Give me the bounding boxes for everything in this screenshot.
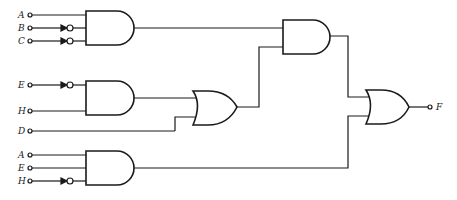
input-terminal-d [28,129,32,133]
output-label-f: F [435,102,443,112]
and-gate-3 [283,20,330,54]
input-terminal-h1 [28,109,32,113]
and-gate-2-body [86,81,134,115]
or-gate-2: F [366,90,443,124]
input-terminal-h2 [28,179,32,183]
and-gate-1-body [86,11,134,45]
and-gate-1: A B C [17,10,134,46]
inverter-icon-c [61,38,86,44]
input-terminal-b [28,26,32,30]
logic-circuit-diagram: A B C E H [0,0,457,200]
input-terminal-e2 [28,166,32,170]
input-terminal-c [28,39,32,43]
inverter-icon-b [61,25,86,31]
or-gate-1 [193,91,237,125]
inverter-icon-h [61,178,86,184]
and-gate-3-body [283,20,330,54]
output-terminal-f [428,105,432,109]
input-terminal-e1 [28,83,32,87]
and-gate-4-body [86,151,134,185]
input-label-b: B [17,23,25,33]
input-label-e1: E [17,80,25,90]
input-label-e2: E [17,163,25,173]
input-label-d: D [17,126,25,136]
input-label-a2: A [17,150,25,160]
input-label-a1: A [17,10,25,20]
input-terminal-a1 [28,13,32,17]
and-gate-4: A E H [17,150,134,186]
inverter-icon-e [61,82,86,88]
input-label-c: C [18,36,25,46]
or-gate-2-body [366,90,409,124]
input-terminal-a2 [28,153,32,157]
or-gate-1-body [193,91,237,125]
input-d: D [17,117,195,136]
input-label-h2: H [17,176,26,186]
input-label-h1: H [17,106,26,116]
and-gate-2: E H [17,80,134,116]
